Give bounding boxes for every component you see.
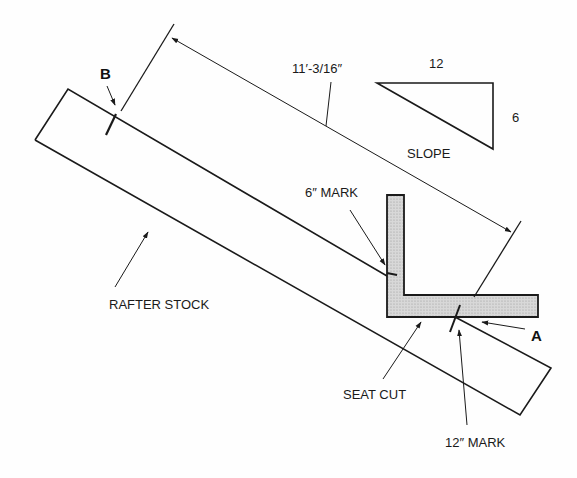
label-point-b: B xyxy=(100,66,111,81)
b-mark xyxy=(106,114,116,135)
label-slope-rise: 6 xyxy=(512,111,519,124)
label-point-a: A xyxy=(531,328,542,343)
label-slope-run: 12 xyxy=(429,57,443,70)
label-rafter-stock: RAFTER STOCK xyxy=(109,298,209,311)
slope-triangle xyxy=(377,83,493,149)
label-twelve-inch-mark: 12″ MARK xyxy=(445,436,505,449)
label-slope: SLOPE xyxy=(407,147,450,160)
label-six-inch-mark: 6″ MARK xyxy=(305,186,358,199)
framing-square xyxy=(387,195,538,317)
label-seat-cut: SEAT CUT xyxy=(343,388,406,401)
diagram-drawing xyxy=(0,0,577,478)
rafter-diagram: B 11′-3/16″ 12 6 SLOPE 6″ MARK RAFTER ST… xyxy=(0,0,577,478)
b-arrow xyxy=(107,86,115,105)
label-dimension: 11′-3/16″ xyxy=(292,62,342,75)
